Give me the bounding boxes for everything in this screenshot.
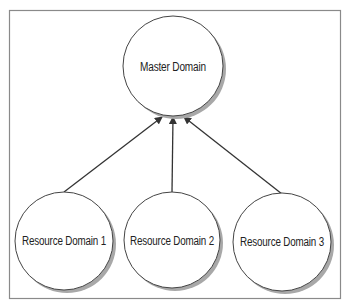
edge-res3-to-master (184, 117, 282, 194)
resource-domain-3-label: Resource Domain 3 (240, 235, 324, 249)
edge-res1-to-master (64, 117, 162, 192)
resource-domain-2-label: Resource Domain 2 (130, 234, 214, 248)
edge-res2-to-master (172, 117, 173, 192)
diagram-canvas (0, 0, 353, 307)
resource-domain-1-label: Resource Domain 1 (22, 234, 106, 248)
master-domain-label: Master Domain (140, 60, 206, 74)
